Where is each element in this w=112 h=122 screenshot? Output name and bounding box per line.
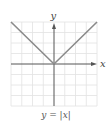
caption: y = |x| <box>0 110 112 120</box>
y-axis-arrow-icon <box>52 23 56 29</box>
abs-value-graph: x y <box>0 0 112 122</box>
x-axis-label: x <box>100 58 106 69</box>
y-axis-label: y <box>50 10 57 21</box>
x-axis-arrow-icon <box>91 62 97 66</box>
